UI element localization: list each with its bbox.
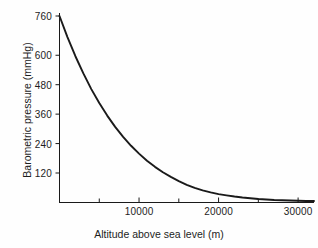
chart-figure: 120240360480600760 100002000030000 Barom… — [0, 0, 318, 248]
x-axis-title: Altitude above sea level (m) — [0, 228, 318, 240]
y-axis-title: Barometric pressure (mmHg) — [21, 20, 33, 200]
x-tick-label: 10000 — [125, 206, 154, 217]
pressure-curve — [60, 16, 315, 201]
y-axis-ticks — [56, 16, 60, 173]
chart-plot-area — [0, 0, 318, 248]
x-tick-label: 20000 — [204, 206, 233, 217]
x-tick-label: 30000 — [284, 206, 313, 217]
